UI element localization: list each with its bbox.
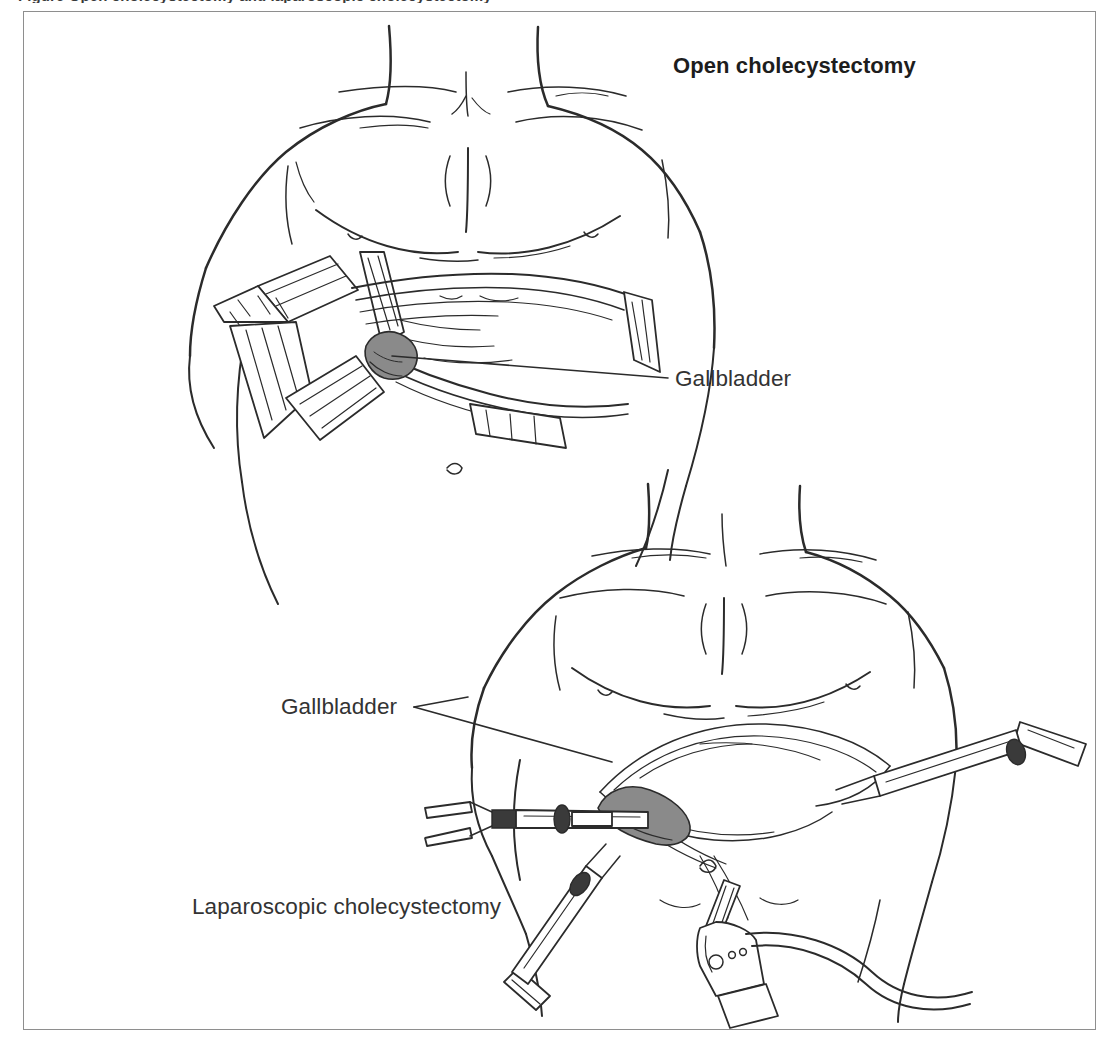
figure-root: Figure Open cholecystectomy and laparosc… [0, 0, 1111, 1046]
figure-caption-partial: Figure Open cholecystectomy and laparosc… [18, 0, 1088, 3]
panel-title-open-cholecystectomy: Open cholecystectomy [673, 53, 916, 79]
callout-label-gallbladder-open: Gallbladder [675, 366, 791, 392]
figure-frame [23, 11, 1096, 1030]
panel-title-laparoscopic-cholecystectomy: Laparoscopic cholecystectomy [192, 894, 501, 920]
callout-label-gallbladder-laparoscopic: Gallbladder [281, 694, 397, 720]
